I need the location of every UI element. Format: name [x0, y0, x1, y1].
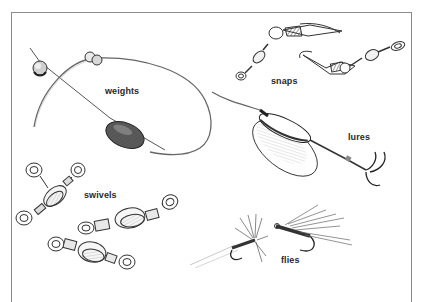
label-weights: weights [105, 86, 139, 96]
flies-drawing [190, 205, 352, 268]
swivels-drawing [16, 163, 180, 269]
label-lures: lures [348, 132, 370, 142]
label-swivels: swivels [84, 190, 117, 200]
label-flies: flies [281, 255, 300, 265]
weights-drawing [30, 48, 211, 155]
label-snaps: snaps [271, 76, 298, 86]
snaps-drawing [236, 23, 406, 80]
